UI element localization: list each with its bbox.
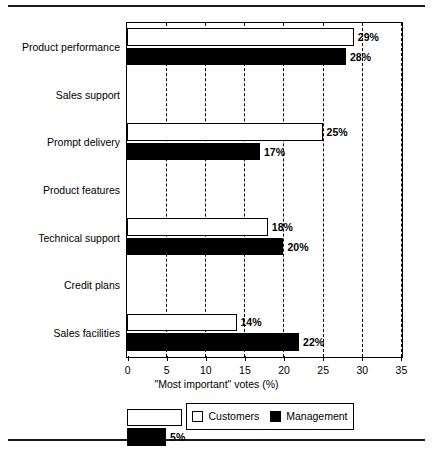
legend-entry-customers: Customers xyxy=(192,411,259,422)
bar-group: 3%1% xyxy=(127,308,402,356)
black-square-icon xyxy=(270,411,281,422)
bar-group: 29%28% xyxy=(127,23,402,71)
bar-group: 4%7 % xyxy=(127,261,402,309)
x-tick-label-20: 20 xyxy=(278,365,290,376)
legend-entry-management: Management xyxy=(270,411,347,422)
bar-customers-4 xyxy=(127,409,182,427)
x-tick-10 xyxy=(206,356,207,361)
bar-value-label: 5% xyxy=(170,432,185,443)
x-tick-label-10: 10 xyxy=(200,365,212,376)
category-label-0: Product performance xyxy=(0,42,120,53)
x-tick-label-5: 5 xyxy=(164,365,170,376)
category-label-3: Product features xyxy=(0,185,120,196)
x-tick-5 xyxy=(167,356,168,361)
x-tick-label-30: 30 xyxy=(356,365,368,376)
plot-area: 29%28%25%17%18%20%14%22%7%5%4%7 %3%1% xyxy=(126,22,403,358)
bar-group: 25%17% xyxy=(127,71,402,119)
x-tick-label-35: 35 xyxy=(396,365,408,376)
x-tick-35 xyxy=(401,356,402,361)
x-axis-title: "Most important" votes (%) xyxy=(0,379,433,390)
white-square-icon xyxy=(192,411,203,422)
x-tick-label-15: 15 xyxy=(239,365,251,376)
bar-management-0 xyxy=(127,48,346,66)
bar-group: 18%20% xyxy=(127,118,402,166)
bar-value-label: 28% xyxy=(350,52,371,63)
bottom-horizontal-rule xyxy=(8,439,425,441)
legend-label-management: Management xyxy=(286,411,347,422)
x-tick-0 xyxy=(128,356,129,361)
x-tick-30 xyxy=(362,356,363,361)
x-tick-label-0: 0 xyxy=(125,365,131,376)
bar-value-label: 29% xyxy=(358,32,379,43)
plot-inner-surface: 29%28%25%17%18%20%14%22%7%5%4%7 %3%1% xyxy=(127,23,402,357)
figure: Product performanceSales supportPrompt d… xyxy=(0,0,433,454)
bar-group: 14%22% xyxy=(127,166,402,214)
x-tick-25 xyxy=(323,356,324,361)
x-tick-20 xyxy=(284,356,285,361)
legend-label-customers: Customers xyxy=(208,411,259,422)
x-tick-15 xyxy=(245,356,246,361)
top-horizontal-rule xyxy=(8,5,425,7)
chart-legend: Customers Management xyxy=(186,403,354,430)
category-label-6: Sales facilities xyxy=(0,328,120,339)
bar-group: 7%5% xyxy=(127,213,402,261)
category-label-4: Technical support xyxy=(0,233,120,244)
bar-management-4 xyxy=(127,428,166,446)
category-label-5: Credit plans xyxy=(0,280,120,291)
category-label-2: Prompt delivery xyxy=(0,137,120,148)
x-tick-label-25: 25 xyxy=(317,365,329,376)
category-label-1: Sales support xyxy=(0,90,120,101)
bar-customers-0 xyxy=(127,28,354,46)
